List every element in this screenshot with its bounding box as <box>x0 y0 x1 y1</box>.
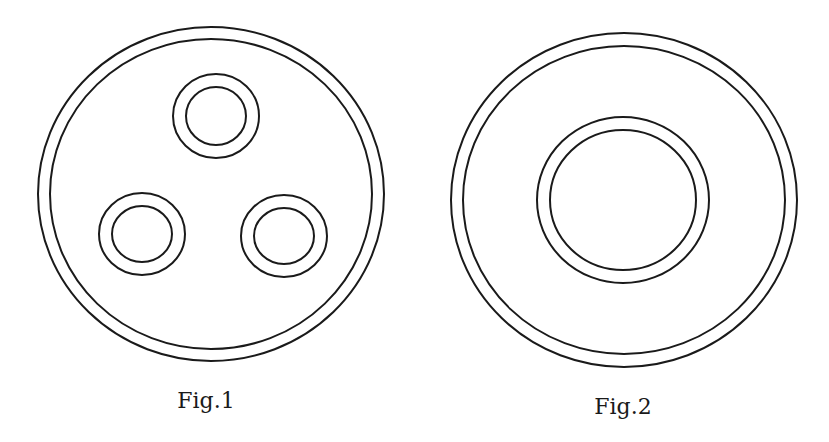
figure-2: Fig.2 <box>451 33 797 419</box>
figure-1: Fig.1 <box>38 27 384 413</box>
figure-caption: Fig.1 <box>177 388 234 413</box>
left-ring-inner-circle <box>112 206 172 262</box>
outer-ring-inner-circle <box>50 39 372 349</box>
diagram-canvas: Fig.1 Fig.2 <box>0 0 829 442</box>
top-ring-inner-circle <box>186 87 246 145</box>
center-ring-outer-circle <box>537 117 709 283</box>
figure-caption: Fig.2 <box>594 394 651 419</box>
right-ring-inner-circle <box>254 208 314 264</box>
center-ring-inner-circle <box>550 130 696 270</box>
outer-ring-outer-circle <box>451 33 797 367</box>
outer-ring-outer-circle <box>38 27 384 361</box>
outer-ring-inner-circle <box>463 46 785 354</box>
